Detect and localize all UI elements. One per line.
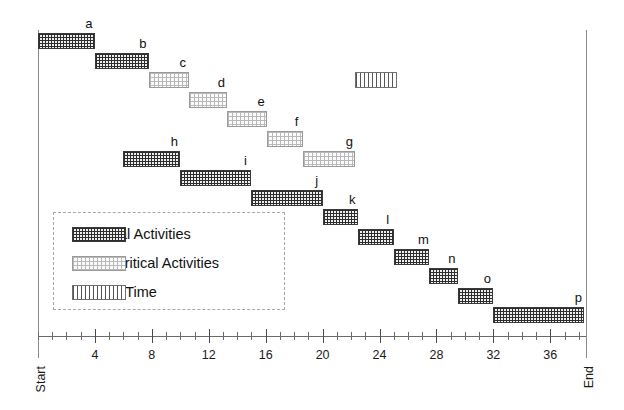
axis-tick-label: 12 [202,348,216,362]
axis-tick-major [380,329,381,343]
axis-tick-major [436,329,437,343]
chart-legend: Critical ActivitiesNon-critical Activiti… [53,212,285,310]
gantt-bar-slack [355,72,396,88]
axis-tick-minor [408,332,409,340]
axis-tick-major [493,329,494,343]
gantt-bar-label: o [484,271,491,286]
legend-item-slack: Slack Time [72,284,157,300]
axis-tick-label: 4 [91,348,98,362]
axis-tick-minor [536,332,537,340]
axis-tick-minor [565,332,566,340]
gantt-chart: 4812162024283236StartEndabhijklmnopcdefg… [0,0,624,410]
gantt-bar-j [251,190,322,206]
axis-tick-minor [579,332,580,340]
gantt-bar-k [323,209,359,225]
axis-tick-minor [479,332,480,340]
axis-tick-minor [394,332,395,340]
axis-tick-minor [422,332,423,340]
axis-tick-label: 36 [543,348,557,362]
gantt-bar-m [394,249,430,265]
axis-tick-label: 24 [373,348,387,362]
gantt-bar-label: e [257,94,264,109]
gantt-bar-label: f [295,114,299,129]
gantt-bar-l [358,229,394,245]
gantt-bar-label: i [244,153,247,168]
gantt-bar-label: a [85,16,92,31]
gantt-bar-label: g [346,134,353,149]
axis-tick-minor [308,332,309,340]
axis-tick-minor [166,332,167,340]
axis-start-label: Start [34,366,48,392]
axis-tick-label: 16 [259,348,273,362]
axis-tick-minor [138,332,139,340]
axis-tick-minor [508,332,509,340]
legend-swatch-critical [72,227,126,242]
axis-tick-minor [223,332,224,340]
gantt-bar-label: j [315,173,318,188]
gantt-bar-label: b [139,36,146,51]
gantt-bar-label: c [180,55,187,70]
x-axis-line [38,336,586,337]
axis-tick-minor [365,332,366,340]
axis-tick-minor [38,332,39,340]
axis-tick-major [209,329,210,343]
gantt-bar-label: k [349,192,356,207]
axis-tick-minor [66,332,67,340]
gantt-bar-label: d [218,75,225,90]
axis-tick-label: 28 [429,348,443,362]
gantt-bar-h [123,151,180,167]
legend-swatch-slack [72,285,126,300]
legend-swatch-noncritical [72,256,126,271]
axis-tick-major [266,329,267,343]
gantt-bar-label: m [418,232,429,247]
end-axis-line [586,30,587,358]
axis-tick-minor [237,332,238,340]
gantt-bar-d [189,92,227,108]
axis-tick-label: 32 [486,348,500,362]
gantt-bar-i [180,170,251,186]
gantt-bar-label: h [171,134,178,149]
axis-tick-major [323,329,324,343]
legend-item-critical: Critical Activities [72,226,191,242]
axis-tick-minor [195,332,196,340]
gantt-bar-e [227,111,267,127]
axis-tick-major [550,329,551,343]
axis-tick-minor [123,332,124,340]
axis-tick-minor [109,332,110,340]
axis-tick-label: 8 [148,348,155,362]
gantt-bar-label: n [448,251,455,266]
gantt-bar-o [458,288,494,304]
axis-end-label: End [582,366,596,388]
axis-tick-minor [180,332,181,340]
axis-tick-minor [280,332,281,340]
axis-tick-major [152,329,153,343]
axis-tick-minor [337,332,338,340]
gantt-bar-c [149,72,189,88]
axis-tick-minor [294,332,295,340]
gantt-bar-b [95,53,149,69]
axis-tick-minor [81,332,82,340]
gantt-bar-f [267,131,303,147]
axis-tick-minor [251,332,252,340]
gantt-bar-p [493,307,584,323]
gantt-bar-g [303,151,356,167]
axis-tick-major [95,329,96,343]
axis-tick-minor [351,332,352,340]
axis-tick-label: 20 [316,348,330,362]
gantt-bar-label: p [575,290,582,305]
gantt-bar-n [429,268,457,284]
axis-tick-minor [465,332,466,340]
axis-tick-minor [451,332,452,340]
legend-item-noncritical: Non-critical Activities [72,255,219,271]
axis-tick-minor [52,332,53,340]
axis-tick-minor [522,332,523,340]
gantt-bar-label: l [386,212,389,227]
gantt-bar-a [38,33,95,49]
start-axis-line [38,30,39,358]
